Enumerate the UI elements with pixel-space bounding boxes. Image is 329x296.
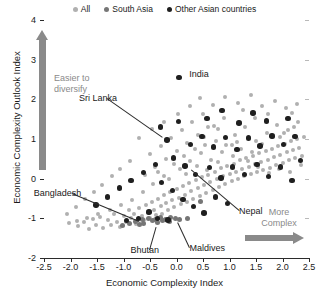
data-point [273, 99, 277, 103]
data-point [206, 173, 210, 177]
data-point [162, 193, 166, 197]
data-point [234, 170, 238, 174]
data-point [239, 147, 243, 151]
up-arrow-icon [36, 30, 49, 170]
y-tick [40, 20, 44, 21]
data-point [151, 182, 155, 186]
data-point [243, 125, 247, 129]
data-point [202, 183, 206, 187]
data-point [285, 150, 289, 154]
data-point [180, 197, 186, 203]
easier-to-diversify-note: Easier to diversify [54, 73, 90, 95]
data-point [290, 111, 294, 115]
data-point [201, 210, 207, 216]
data-point [289, 139, 293, 143]
y-axis-title: Economic Complexity Outlook Index [11, 3, 22, 253]
data-point [213, 194, 219, 200]
data-point [233, 133, 237, 137]
data-point [195, 164, 199, 168]
data-point [246, 135, 252, 141]
data-point [230, 164, 236, 170]
data-point [212, 124, 216, 128]
data-point [181, 184, 185, 188]
x-axis-line [44, 258, 310, 259]
data-point [220, 150, 224, 154]
data-point [106, 218, 110, 222]
data-point [257, 151, 261, 155]
x-tick-label: 2.5 [294, 263, 324, 272]
data-point [146, 209, 152, 215]
data-point [281, 142, 287, 148]
data-point [216, 160, 220, 164]
data-point [191, 197, 195, 201]
data-point [188, 142, 194, 148]
data-point [264, 149, 268, 153]
data-point [159, 180, 165, 186]
data-point [284, 106, 288, 110]
legend-marker-south [104, 7, 109, 12]
data-point [217, 185, 221, 189]
data-point [204, 191, 208, 195]
data-point [250, 150, 254, 154]
data-point [254, 162, 260, 168]
data-point [255, 170, 259, 174]
data-point [211, 103, 215, 107]
y-tick [40, 179, 44, 180]
data-point [299, 163, 303, 167]
data-point [188, 159, 192, 163]
data-point [236, 177, 240, 181]
data-point [287, 158, 291, 162]
data-point [178, 167, 182, 171]
data-point [298, 158, 304, 164]
y-tick [40, 218, 44, 219]
data-point [268, 166, 272, 170]
data-point [191, 204, 197, 210]
data-point [264, 118, 270, 124]
data-point [295, 102, 299, 106]
data-point [100, 183, 104, 187]
data-point [94, 223, 98, 227]
data-point [159, 204, 163, 208]
data-point [162, 120, 166, 124]
data-point [162, 174, 166, 178]
data-point [196, 186, 200, 190]
legend-item-other[interactable]: Other Asian countries [167, 5, 256, 14]
data-point [278, 153, 282, 157]
data-point [236, 101, 240, 105]
data-point [282, 131, 286, 135]
country-label-bangladesh: Bangladesh [34, 188, 82, 198]
data-point [175, 187, 179, 191]
data-point [278, 164, 284, 170]
data-point [208, 180, 212, 184]
data-point [266, 112, 270, 116]
x-tick-label: -0.5 [135, 263, 165, 272]
x-tick-label: -1.5 [82, 263, 112, 272]
y-tick-right [305, 60, 309, 61]
scatter-chart: AllSouth AsiaOther Asian countries India… [0, 0, 329, 296]
data-point [137, 206, 141, 210]
legend-item-all[interactable]: All [73, 5, 90, 14]
y-tick-right [305, 179, 309, 180]
data-point [199, 151, 203, 155]
data-point [75, 219, 79, 223]
data-point [253, 116, 257, 120]
data-point [291, 148, 295, 152]
data-point [249, 172, 253, 176]
data-point [296, 120, 300, 124]
country-label-india: India [189, 69, 209, 79]
x-tick-label: 2.0 [268, 263, 298, 272]
data-point [198, 194, 202, 198]
data-point [164, 201, 168, 205]
data-point [292, 125, 296, 129]
data-point [250, 110, 256, 116]
data-point [171, 155, 177, 161]
data-point [159, 144, 163, 148]
legend-item-south[interactable]: South Asia [104, 5, 153, 14]
data-point [67, 221, 71, 225]
data-point [179, 202, 183, 206]
data-point [118, 167, 122, 171]
data-point [236, 120, 242, 126]
data-point [228, 172, 232, 176]
data-point [199, 134, 205, 140]
data-point [176, 112, 180, 116]
